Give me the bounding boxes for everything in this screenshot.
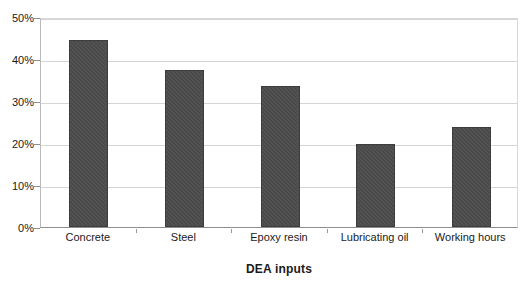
bar — [261, 86, 300, 227]
plot-area — [40, 18, 518, 228]
bar-chart-figure: 0%10%20%30%40%50% ConcreteSteelEpoxy res… — [0, 0, 528, 291]
y-axis-tick-label: 20% — [0, 139, 34, 150]
gridline — [41, 19, 517, 20]
x-axis-tick-label: Concrete — [65, 232, 110, 243]
y-axis-tick-label: 30% — [0, 97, 34, 108]
y-axis-tick-label: 0% — [0, 223, 34, 234]
x-axis-tick-label: Epoxy resin — [250, 232, 307, 243]
x-axis-category-labels: ConcreteSteelEpoxy resinLubricating oilW… — [40, 232, 518, 252]
gridline — [41, 61, 517, 62]
x-axis-tick-label: Steel — [171, 232, 196, 243]
x-axis-title: DEA inputs — [40, 262, 518, 276]
bar — [452, 127, 491, 227]
x-axis-tick-label: Working hours — [435, 232, 506, 243]
bar — [69, 40, 108, 227]
y-axis-tick-mark — [34, 228, 40, 229]
bar — [165, 70, 204, 228]
x-axis-tick-label: Lubricating oil — [341, 232, 409, 243]
bar — [356, 144, 395, 227]
y-axis-tick-label: 40% — [0, 55, 34, 66]
y-axis-tick-label: 50% — [0, 13, 34, 24]
y-axis-tick-label: 10% — [0, 181, 34, 192]
